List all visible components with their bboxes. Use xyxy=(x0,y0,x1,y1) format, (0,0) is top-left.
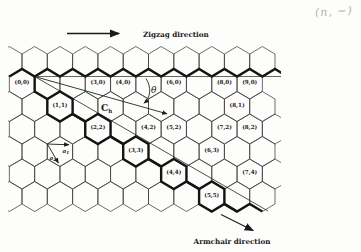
handwritten-annotation: (n, ~) xyxy=(315,4,354,20)
hex-label-5-5: (5,5) xyxy=(204,192,219,198)
hex-label-4-2: (4,2) xyxy=(141,124,156,130)
hex-label-2-2: (2,2) xyxy=(90,124,105,130)
nanotube-chirality-figure: Zigzag direction Armchair direction θ (0… xyxy=(0,0,361,252)
basis-vector-a1-arrow xyxy=(47,144,69,145)
hex-label-6-3: (6,3) xyxy=(204,147,219,153)
hex-label-6-0: (6,0) xyxy=(166,79,181,85)
chiral-vector-label: Ch xyxy=(101,103,112,114)
armchair-direction-label: Armchair direction xyxy=(193,237,272,246)
hex-label-9-0: (9,0) xyxy=(242,79,257,85)
hex-label-0-0: (0,0) xyxy=(14,79,29,85)
hex-label-1-1: (1,1) xyxy=(52,102,67,108)
zigzag-direction-label: Zigzag direction xyxy=(143,30,210,39)
hex-label-7-4: (7,4) xyxy=(242,169,257,175)
hex-label-4-0: (4,0) xyxy=(116,79,131,85)
hex-label-8-2: (8,2) xyxy=(242,124,257,130)
hex-label-7-2: (7,2) xyxy=(217,124,232,130)
hex-label-3-3: (3,3) xyxy=(128,147,143,153)
hex-label-4-4: (4,4) xyxy=(166,169,181,175)
theta-label: θ xyxy=(151,85,157,95)
basis-vector-a1-label: a1 xyxy=(63,148,70,156)
hex-label-5-2: (5,2) xyxy=(166,124,181,130)
armchair-direction-arrow xyxy=(221,215,253,231)
lattice-diagram-svg: Zigzag direction Armchair direction θ (0… xyxy=(0,0,361,252)
armchair-axis-line xyxy=(35,77,268,212)
hex-label-8-0: (8,0) xyxy=(217,79,232,85)
hex-label-8-1: (8,1) xyxy=(230,102,245,108)
hex-label-3-0: (3,0) xyxy=(90,79,105,85)
